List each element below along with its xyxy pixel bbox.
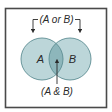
intersection-label: (A & B) (41, 86, 73, 97)
union-label: (A or B) (39, 14, 73, 25)
venn-diagram: (A or B) A B (A & B) (0, 0, 112, 112)
set-b-label: B (69, 53, 76, 65)
set-a-label: A (36, 53, 44, 65)
